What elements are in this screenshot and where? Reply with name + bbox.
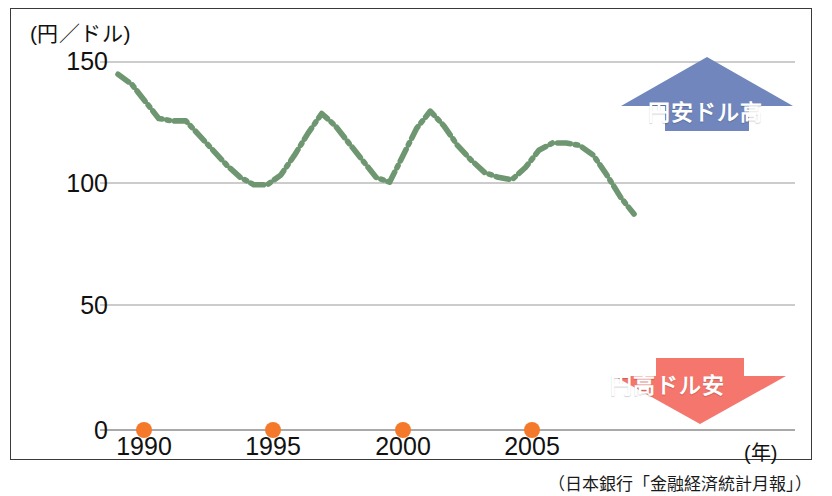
exchange-rate-chart: (円／ドル) 150 100 50 0 1990 1995 2000 2005 … xyxy=(0,0,832,496)
x-tick-1995: 1995 xyxy=(245,432,301,461)
y-axis-unit-label: (円／ドル) xyxy=(30,17,131,47)
source-note: （日本銀行「金融経済統計月報」） xyxy=(0,470,812,495)
y-tick-50: 50 xyxy=(18,291,108,320)
y-tick-0: 0 xyxy=(18,416,108,445)
y-tick-150: 150 xyxy=(18,47,108,76)
x-tick-2005: 2005 xyxy=(504,432,560,461)
x-tick-2000: 2000 xyxy=(375,432,431,461)
x-axis-unit-label: (年) xyxy=(744,437,777,466)
down-arrow-icon xyxy=(614,358,786,424)
y-tick-100: 100 xyxy=(18,169,108,198)
x-tick-1990: 1990 xyxy=(116,432,172,461)
chart-plot-area xyxy=(0,0,832,496)
up-arrow-icon xyxy=(621,57,793,131)
exchange-rate-line xyxy=(118,74,634,214)
